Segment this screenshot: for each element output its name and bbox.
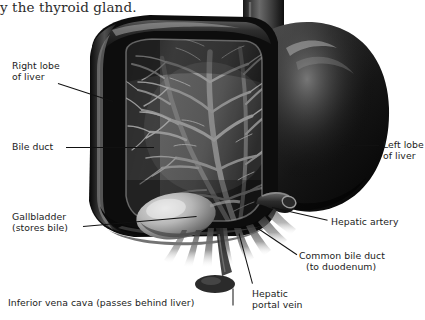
right-lobe-of-liver	[89, 15, 280, 245]
label-inferior-vena-cava-line-1: Inferior vena cava (passes behind liver)	[8, 297, 194, 308]
left-lobe-of-liver	[261, 22, 389, 212]
label-right-lobe-line-1: Right lobe	[12, 60, 60, 71]
label-left-lobe-line-2: of liver	[383, 150, 424, 161]
leader-bile-duct	[66, 147, 154, 148]
label-right-lobe-of-liver: Right lobe of liver	[12, 60, 60, 83]
label-hepatic-artery: Hepatic artery	[331, 216, 399, 227]
inferior-vena-cava-descending	[195, 275, 235, 293]
leader-left-lobe	[341, 145, 379, 146]
label-left-lobe-line-1: Left lobe	[383, 139, 424, 150]
label-gallbladder-line-1: Gallbladder	[12, 211, 68, 222]
label-hepatic-portal-vein-line-2: portal vein	[252, 299, 303, 310]
label-common-bile-duct-line-1: Common bile duct	[299, 250, 385, 261]
label-common-bile-duct-line-2: (to duodenum)	[299, 261, 385, 272]
leader-inferior-vena-cava	[233, 289, 234, 306]
label-hepatic-portal-vein: Hepatic portal vein	[252, 288, 303, 311]
label-bile-duct: Bile duct	[12, 141, 53, 152]
running-body-text: y the thyroid gland.	[0, 0, 137, 15]
label-common-bile-duct: Common bile duct (to duodenum)	[299, 250, 385, 273]
label-left-lobe-of-liver: Left lobe of liver	[383, 139, 424, 162]
label-inferior-vena-cava: Inferior vena cava (passes behind liver)	[8, 297, 194, 308]
label-bile-duct-line-1: Bile duct	[12, 141, 53, 152]
label-gallbladder: Gallbladder (stores bile)	[12, 211, 68, 234]
label-gallbladder-line-2: (stores bile)	[12, 222, 68, 233]
liver-anatomy-figure: y the thyroid gland. Right lobe of liver…	[0, 0, 425, 320]
label-right-lobe-line-2: of liver	[12, 71, 60, 82]
label-hepatic-artery-line-1: Hepatic artery	[331, 216, 399, 227]
label-hepatic-portal-vein-line-1: Hepatic	[252, 288, 303, 299]
